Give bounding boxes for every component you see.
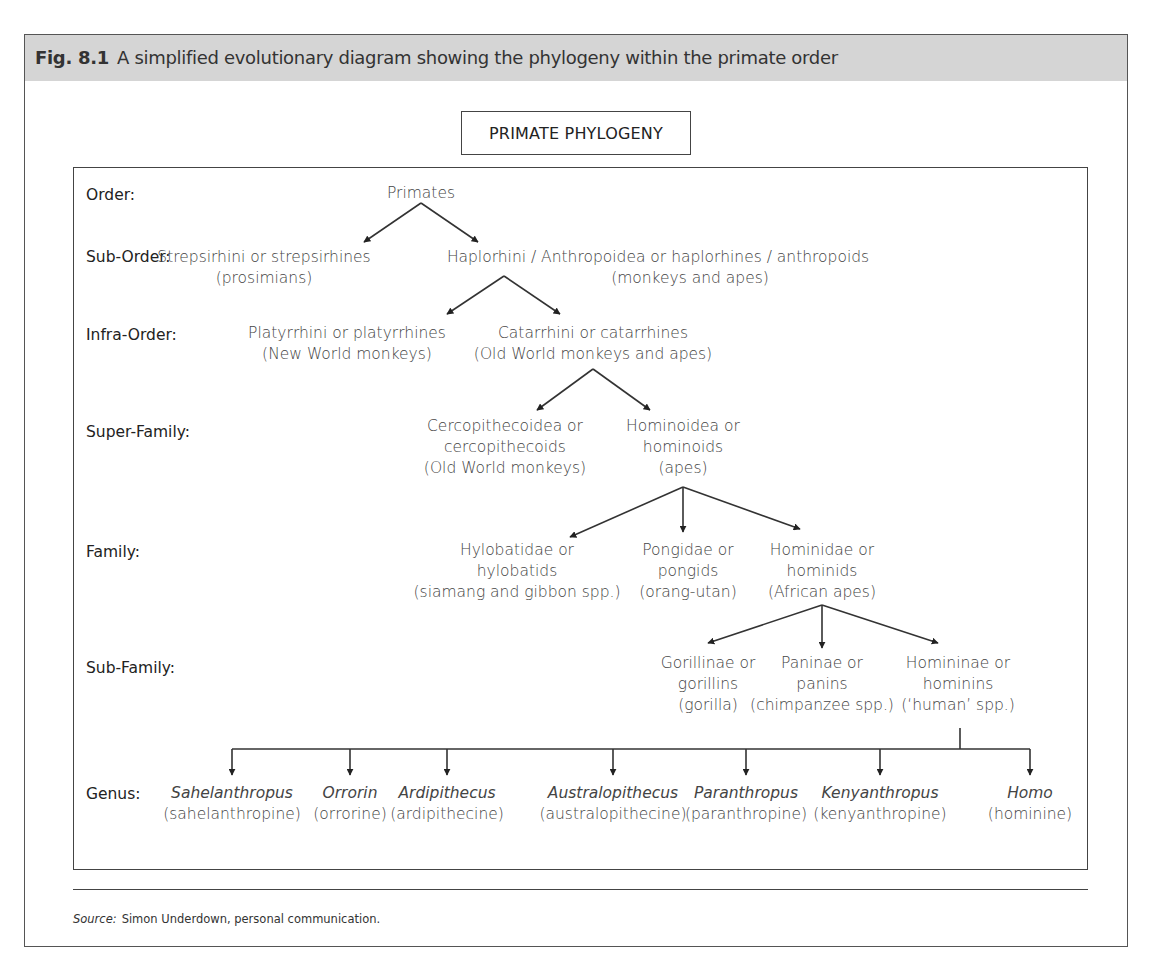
taxon-line: (Old World monkeys and apes) [474, 344, 712, 365]
taxon-superfamily: Cercopithecoidea orcercopithecoids(Old W… [424, 416, 586, 479]
taxon-infraorder: Catarrhini or catarrhines(Old World monk… [474, 323, 712, 365]
taxon-line: (New World monkeys) [248, 344, 446, 365]
taxon-line: Paninae or [750, 653, 894, 674]
genus-name: Ardipithecus [390, 783, 504, 804]
source-label: Source: [73, 912, 117, 926]
rank-label-sub-family: Sub-Family: [86, 659, 175, 677]
taxon-line: (prosimians) [157, 268, 370, 289]
taxon-subfamily: Paninae orpanins(chimpanzee spp.) [750, 653, 894, 716]
genus-common-name: (paranthropine) [685, 804, 807, 825]
taxon-family: Pongidae orpongids(orang-utan) [639, 540, 736, 603]
taxon-line: Hominoidea or [626, 416, 740, 437]
taxon-line: (siamang and gibbon spp.) [414, 582, 621, 603]
taxon-line: Hominidae or [768, 540, 876, 561]
taxon-genus: Homo(hominine) [988, 783, 1072, 825]
taxon-subfamily: Homininae orhominins(‘human’ spp.) [901, 653, 1015, 716]
taxon-line: (‘human’ spp.) [901, 695, 1015, 716]
taxon-line: Hylobatidae or [414, 540, 621, 561]
taxon-line: hominids [768, 561, 876, 582]
genus-name: Homo [988, 783, 1072, 804]
taxon-suborder: Strepsirhini or strepsirhines(prosimians… [157, 247, 370, 289]
taxon-genus: Sahelanthropus(sahelanthropine) [163, 783, 301, 825]
figure-caption-text: A simplified evolutionary diagram showin… [117, 47, 838, 68]
taxon-line: hominoids [626, 437, 740, 458]
taxon-line: Homininae or [901, 653, 1015, 674]
taxon-line: Primates [387, 183, 455, 204]
taxon-order: Primates [387, 183, 455, 204]
taxon-line: Catarrhini or catarrhines [474, 323, 712, 344]
taxon-line: (African apes) [768, 582, 876, 603]
taxon-line: hominins [901, 674, 1015, 695]
source-text: Simon Underdown, personal communication. [122, 912, 381, 926]
taxon-line: Strepsirhini or strepsirhines [157, 247, 370, 268]
taxon-line: Cercopithecoidea or [424, 416, 586, 437]
taxon-line: hylobatids [414, 561, 621, 582]
taxon-line: (monkeys and apes) [611, 268, 769, 289]
taxon-line: cercopithecoids [424, 437, 586, 458]
diagram-title: PRIMATE PHYLOGENY [461, 111, 691, 155]
rank-label-infra-order: Infra-Order: [86, 326, 177, 344]
genus-name: Kenyanthropus [813, 783, 946, 804]
rank-label-order: Order: [86, 186, 135, 204]
figure-header: Fig. 8.1A simplified evolutionary diagra… [25, 35, 1127, 81]
taxon-suborder: Haplorhini / Anthropoidea or haplorhines… [447, 247, 869, 268]
figure-number: Fig. 8.1 [35, 47, 109, 68]
taxon-infraorder: Platyrrhini or platyrrhines(New World mo… [248, 323, 446, 365]
taxon-line: Gorillinae or [661, 653, 756, 674]
figure-caption: Fig. 8.1A simplified evolutionary diagra… [35, 47, 838, 68]
taxon-superfamily: Hominoidea orhominoids(apes) [626, 416, 740, 479]
taxon-genus: Australopithecus(australopithecine) [539, 783, 686, 825]
taxon-line: pongids [639, 561, 736, 582]
taxon-genus: Orrorin(orrorine) [313, 783, 387, 825]
taxon-line: (apes) [626, 458, 740, 479]
taxon-suborder: (monkeys and apes) [611, 268, 769, 289]
source-note: Source:Simon Underdown, personal communi… [73, 912, 380, 926]
genus-common-name: (kenyanthropine) [813, 804, 946, 825]
rank-label-family: Family: [86, 543, 140, 561]
genus-name: Orrorin [313, 783, 387, 804]
taxon-line: (orang-utan) [639, 582, 736, 603]
source-divider [73, 889, 1088, 890]
taxon-subfamily: Gorillinae orgorillins(gorilla) [661, 653, 756, 716]
genus-common-name: (hominine) [988, 804, 1072, 825]
taxon-line: (chimpanzee spp.) [750, 695, 894, 716]
genus-name: Paranthropus [685, 783, 807, 804]
taxon-genus: Paranthropus(paranthropine) [685, 783, 807, 825]
taxon-line: Pongidae or [639, 540, 736, 561]
taxon-line: (gorilla) [661, 695, 756, 716]
genus-common-name: (sahelanthropine) [163, 804, 301, 825]
genus-name: Sahelanthropus [163, 783, 301, 804]
taxon-line: (Old World monkeys) [424, 458, 586, 479]
rank-label-super-family: Super-Family: [86, 423, 190, 441]
taxon-family: Hylobatidae orhylobatids(siamang and gib… [414, 540, 621, 603]
taxon-line: Platyrrhini or platyrrhines [248, 323, 446, 344]
taxon-line: gorillins [661, 674, 756, 695]
taxon-genus: Kenyanthropus(kenyanthropine) [813, 783, 946, 825]
taxon-line: Haplorhini / Anthropoidea or haplorhines… [447, 247, 869, 268]
taxon-family: Hominidae orhominids(African apes) [768, 540, 876, 603]
genus-name: Australopithecus [539, 783, 686, 804]
genus-common-name: (australopithecine) [539, 804, 686, 825]
genus-common-name: (ardipithecine) [390, 804, 504, 825]
taxon-line: panins [750, 674, 894, 695]
rank-label-genus: Genus: [86, 785, 141, 803]
taxon-genus: Ardipithecus(ardipithecine) [390, 783, 504, 825]
genus-common-name: (orrorine) [313, 804, 387, 825]
